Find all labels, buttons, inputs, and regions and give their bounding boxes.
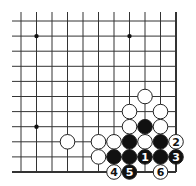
go-board: 213456 bbox=[0, 0, 196, 186]
black-stone bbox=[122, 150, 137, 165]
white-stone-move-2: 2 bbox=[169, 135, 184, 150]
white-stone bbox=[122, 119, 137, 134]
star-point bbox=[34, 125, 38, 129]
white-stone-move-4: 4 bbox=[107, 165, 122, 180]
black-stone bbox=[153, 150, 168, 165]
black-stone bbox=[107, 150, 122, 165]
stone-circle bbox=[153, 104, 168, 119]
black-stone-move-3: 3 bbox=[169, 150, 184, 165]
stone-circle bbox=[153, 135, 168, 150]
white-stone bbox=[122, 104, 137, 119]
stone-circle bbox=[153, 150, 168, 165]
white-stone bbox=[60, 135, 75, 150]
stones: 213456 bbox=[60, 89, 183, 179]
white-stone-move-6: 6 bbox=[153, 165, 168, 180]
move-number-label: 6 bbox=[157, 166, 165, 179]
black-stone bbox=[153, 135, 168, 150]
move-number-label: 1 bbox=[141, 151, 149, 164]
white-stone bbox=[138, 89, 153, 104]
black-stone bbox=[138, 119, 153, 134]
move-number-label: 5 bbox=[126, 166, 134, 179]
white-stone bbox=[91, 135, 106, 150]
stone-circle bbox=[107, 135, 122, 150]
stone-circle bbox=[122, 119, 137, 134]
move-number-label: 3 bbox=[172, 151, 180, 164]
stone-circle bbox=[122, 104, 137, 119]
white-stone bbox=[153, 119, 168, 134]
white-stone bbox=[138, 135, 153, 150]
black-stone-move-1: 1 bbox=[138, 150, 153, 165]
black-stone-move-5: 5 bbox=[122, 165, 137, 180]
stone-circle bbox=[60, 135, 75, 150]
move-number-label: 2 bbox=[172, 136, 180, 149]
move-number-label: 4 bbox=[110, 166, 118, 179]
white-stone bbox=[107, 135, 122, 150]
stone-circle bbox=[122, 135, 137, 150]
star-point bbox=[34, 34, 38, 38]
stone-circle bbox=[138, 135, 153, 150]
stone-circle bbox=[122, 150, 137, 165]
star-point bbox=[127, 34, 131, 38]
white-stone bbox=[91, 150, 106, 165]
white-stone bbox=[153, 104, 168, 119]
stone-circle bbox=[91, 135, 106, 150]
stone-circle bbox=[138, 119, 153, 134]
stone-circle bbox=[91, 150, 106, 165]
black-stone bbox=[122, 135, 137, 150]
stone-circle bbox=[138, 89, 153, 104]
stone-circle bbox=[107, 150, 122, 165]
stone-circle bbox=[153, 119, 168, 134]
